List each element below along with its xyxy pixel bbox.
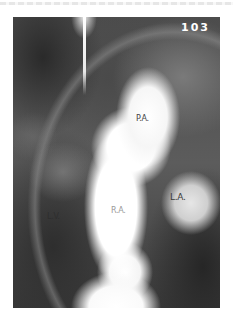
label-right-atrium: R.A. xyxy=(111,207,126,215)
label-left-atrium: L.A. xyxy=(170,193,186,201)
top-edge-artifact xyxy=(0,2,233,5)
label-left-ventricle: L.V. xyxy=(47,213,60,221)
angiogram-image: 103 P.A. L.A. R.A. L.V. xyxy=(13,17,220,308)
frame-number: 103 xyxy=(181,21,210,34)
contrast-filled-chambers xyxy=(13,17,220,308)
label-pulmonary-artery: P.A. xyxy=(136,115,149,123)
catheter xyxy=(83,17,86,95)
